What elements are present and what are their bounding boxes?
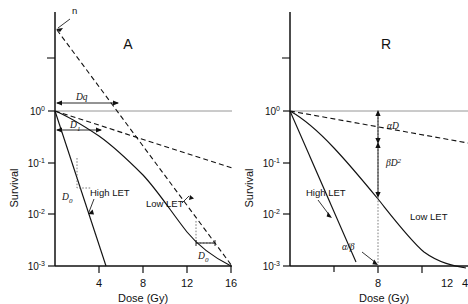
low-let-label: Low LET: [410, 211, 448, 222]
y-tick-label-1e-2: 10-2: [263, 208, 280, 220]
y-tick-exp-1: -1: [39, 157, 45, 164]
x-tick-label-12: 12: [181, 277, 193, 289]
dq-arrowhead-left: [56, 100, 62, 105]
d-zero-low-let-triangle: [196, 221, 215, 243]
y-tick-exp-0: 0: [41, 105, 45, 112]
y-tick-label-1e-3: 10-3: [263, 260, 280, 272]
d1-arrowhead-right: [96, 127, 102, 132]
alpha-beta-ratio-label: α/β: [342, 242, 355, 252]
high-let-leader: [89, 199, 94, 212]
panel-letter-a: A: [123, 36, 133, 52]
x-tick-label-8: 8: [375, 277, 381, 289]
y-tick-exp-0: 0: [276, 105, 280, 112]
d-one-dose-label: D1: [69, 120, 80, 133]
high-let-label: High LET: [90, 187, 130, 198]
y-tick-label-1e-2: 10-2: [28, 208, 45, 220]
x-tick-label-8: 8: [140, 277, 146, 289]
y-axis-label: Survival: [8, 168, 20, 207]
high-let-arrowhead: [88, 210, 94, 215]
terminal-slope-extrapolation: [57, 30, 232, 266]
d-zero-low-let-label: D0: [197, 251, 209, 264]
panel-letter-b: R: [381, 36, 391, 52]
n-leader-line: [58, 19, 70, 28]
y-tick-exp-3: -3: [39, 260, 45, 267]
y-tick-exp-3: -3: [274, 260, 280, 267]
y-tick-label-1e-1: 10-1: [28, 157, 45, 169]
x-tick-label-16-cropped: 4: [462, 277, 468, 289]
extrapolation-number-label: n: [72, 5, 77, 16]
d1-arrowhead-left: [56, 127, 62, 132]
y-tick-label-1e-3: 10-3: [28, 260, 45, 272]
y-axis-label: Survival: [243, 168, 255, 207]
y-tick-label-1e0: 100: [30, 105, 45, 117]
beta-d2-arrowhead-top: [375, 142, 380, 148]
x-tick-label-4: 4: [96, 277, 102, 289]
y-tick-label-1e0: 100: [265, 105, 280, 117]
panel-a: 100 10-1 10-2 10-3 4 8 12 16 Dose (Gy) S…: [0, 0, 234, 304]
dq-arrowhead-right: [113, 100, 119, 105]
survival-curve-figure: 100 10-1 10-2 10-3 4 8 12 16 Dose (Gy) S…: [0, 0, 468, 304]
y-tick-label-1e-1: 10-1: [263, 157, 280, 169]
high-let-label: High LET: [306, 187, 346, 198]
y-tick-exp-2: -2: [274, 208, 280, 215]
x-tick-label-12: 12: [441, 277, 453, 289]
y-tick-exp-2: -2: [39, 208, 45, 215]
low-let-label: Low LET: [146, 198, 184, 209]
beta-d-squared-term-label: βD2: [385, 157, 402, 168]
alpha-d-term-label: αD: [387, 121, 399, 131]
x-axis-label: Dose (Gy): [359, 292, 409, 304]
x-axis-label: Dose (Gy): [118, 292, 168, 304]
quasi-threshold-dose-label: Dq: [75, 92, 88, 102]
y-tick-exp-1: -1: [274, 157, 280, 164]
panel-a-plot: 100 10-1 10-2 10-3 4 8 12 16 Dose (Gy) S…: [0, 0, 234, 304]
panel-b-plot: 100 10-1 10-2 10-3 8 12 4 Dose (Gy) Surv…: [234, 0, 468, 304]
initial-slope-extrapolation: [55, 111, 232, 168]
d-zero-high-let-label: D0: [61, 192, 73, 205]
low-let-arrowhead: [189, 195, 194, 200]
panel-b: 100 10-1 10-2 10-3 8 12 4 Dose (Gy) Surv…: [234, 0, 468, 304]
